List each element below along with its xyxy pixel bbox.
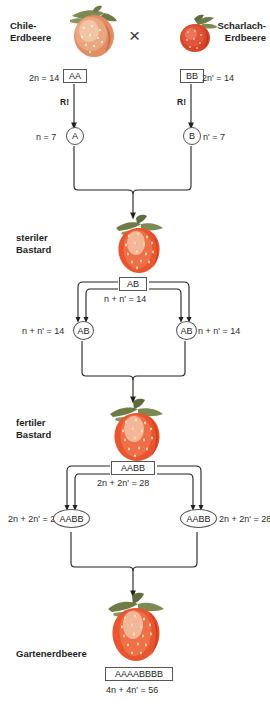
parent-left-ploidy: 2n = 14 — [29, 73, 59, 83]
result-genotype-box: AAAABBBB — [105, 667, 173, 681]
fertiler-bastard-ploidy: 2n + 2n' = 28 — [97, 478, 149, 488]
meiosis-label-right: R! — [177, 97, 186, 107]
steriler-gamete-left-ploidy: n + n' = 14 — [22, 326, 64, 336]
result-ploidy: 4n + 4n' = 56 — [106, 685, 158, 695]
strawberry-gartenerdbeere — [104, 592, 168, 664]
generation-label-steriler-bastard: steriler Bastard — [16, 232, 51, 255]
gamete-right-ploidy: n' = 7 — [203, 132, 225, 142]
parent-left-genotype-box: AA — [63, 69, 87, 83]
meiosis-label-left: R! — [60, 97, 69, 107]
fertiler-bastard-genotype-box: AABB — [111, 461, 155, 475]
strawberry-fertiler-bastard — [106, 398, 168, 464]
steriler-bastard-genotype-box: AB — [119, 277, 147, 291]
diagram-canvas: Chile- Erdbeere Scharlach- Erdbeere × 2n… — [0, 0, 270, 719]
steriler-gamete-right-ploidy: n + n' = 14 — [198, 326, 240, 336]
fertiler-gamete-right-ploidy: 2n + 2n' = 28 — [219, 514, 270, 524]
parent-right-genotype-box: BB — [180, 69, 204, 83]
steriler-gamete-left-circle: AB — [73, 321, 94, 340]
fertiler-gamete-left-circle: AABB — [53, 509, 90, 528]
gamete-left-circle: A — [66, 127, 84, 145]
parent-right-ploidy: 2n' = 14 — [202, 73, 234, 83]
strawberry-chile-erdbeere — [60, 4, 122, 62]
steriler-bastard-ploidy: n + n' = 14 — [104, 294, 146, 304]
parent-left-name: Chile- Erdbeere — [10, 20, 51, 43]
fertiler-gamete-right-circle: AABB — [180, 509, 217, 528]
strawberry-steriler-bastard — [110, 214, 168, 276]
gamete-left-ploidy: n = 7 — [36, 132, 56, 142]
cross-symbol: × — [129, 26, 140, 45]
result-label-gartenerdbeere: Gartenerdbeere — [16, 648, 87, 660]
parent-right-name: Scharlach- Erdbeere — [214, 20, 266, 43]
generation-label-fertiler-bastard: fertiler Bastard — [16, 417, 51, 440]
steriler-gamete-right-circle: AB — [176, 321, 197, 340]
gamete-right-circle: B — [183, 127, 201, 145]
